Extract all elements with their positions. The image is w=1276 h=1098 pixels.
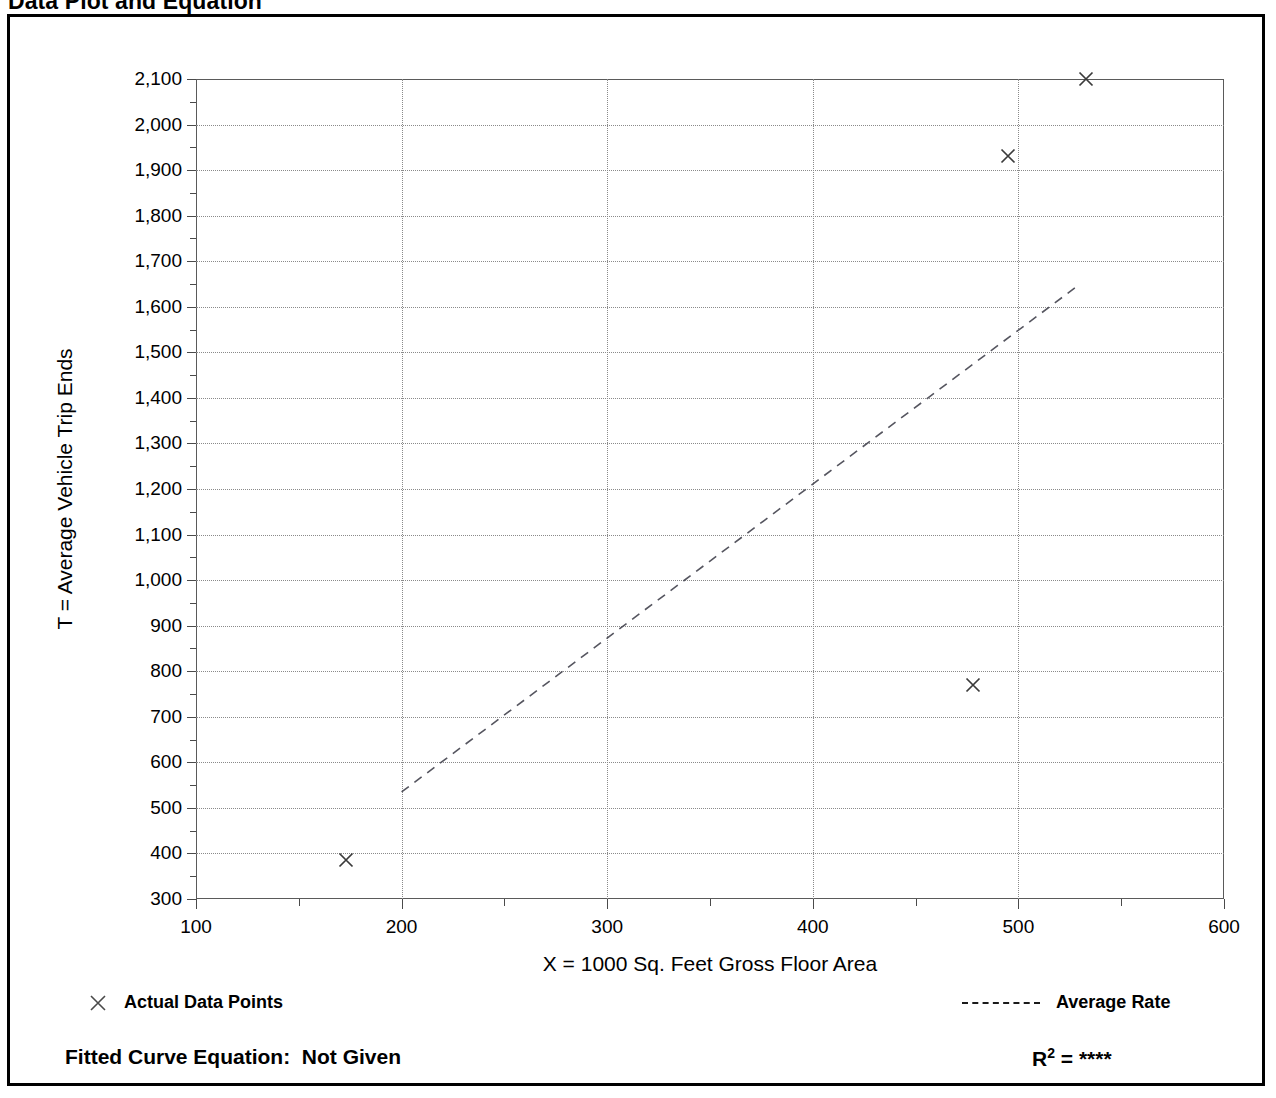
x-axis-tick-label: 400 — [768, 917, 858, 936]
x-axis-tick-label: 500 — [973, 917, 1063, 936]
legend-label-actual-points: Actual Data Points — [124, 992, 283, 1013]
plot-area: 3004005006007008009001,0001,1001,2001,30… — [196, 79, 1224, 899]
x-mark-icon — [88, 993, 108, 1013]
x-axis-tick — [402, 899, 403, 909]
y-axis-tick — [187, 808, 196, 809]
y-axis-tick — [187, 580, 196, 581]
legend-item-average-rate: Average Rate — [962, 992, 1170, 1013]
y-axis-tick — [187, 535, 196, 536]
y-axis-tick-label: 1,900 — [102, 160, 182, 179]
y-axis-tick-label: 1,800 — [102, 206, 182, 225]
y-axis-tick-label: 500 — [102, 798, 182, 817]
x-axis-tick — [813, 899, 814, 909]
data-point-marker — [337, 851, 355, 869]
y-axis-tick-label: 600 — [102, 752, 182, 771]
average-rate-trendline — [196, 79, 1224, 899]
x-axis-minor-tick — [299, 899, 300, 906]
y-axis-tick — [187, 307, 196, 308]
x-axis-tick-label: 100 — [151, 917, 241, 936]
y-axis-tick — [187, 671, 196, 672]
y-axis-tick — [187, 489, 196, 490]
y-axis-tick-label: 1,100 — [102, 525, 182, 544]
y-axis-tick-label: 2,100 — [102, 69, 182, 88]
fitted-curve-equation-label: Fitted Curve Equation: — [65, 1045, 290, 1068]
y-axis-tick — [187, 352, 196, 353]
x-axis-tick — [196, 899, 197, 909]
y-axis-tick — [187, 79, 196, 80]
page-frame: T = Average Vehicle Trip Ends X = 1000 S… — [7, 14, 1265, 1086]
legend-label-average-rate: Average Rate — [1056, 992, 1170, 1013]
y-axis-tick — [187, 170, 196, 171]
y-axis-tick — [187, 261, 196, 262]
y-axis-tick — [187, 443, 196, 444]
x-axis-title: X = 1000 Sq. Feet Gross Floor Area — [196, 952, 1224, 976]
y-axis-tick-label: 800 — [102, 661, 182, 680]
r-squared-value: **** — [1079, 1047, 1112, 1070]
data-point-marker — [999, 147, 1017, 165]
x-axis-minor-tick — [1121, 899, 1122, 906]
chart-page: Data Plot and Equation T = Average Vehic… — [0, 0, 1276, 1098]
x-axis-minor-tick — [504, 899, 505, 906]
fitted-curve-equation: Fitted Curve Equation: Not Given — [65, 1045, 401, 1069]
x-axis-tick — [607, 899, 608, 909]
r-squared-exponent: 2 — [1047, 1045, 1055, 1061]
y-axis-tick-label: 300 — [102, 889, 182, 908]
data-point-marker — [1077, 70, 1095, 88]
y-axis-tick — [187, 398, 196, 399]
y-axis-tick — [187, 899, 196, 900]
chart-footer: Fitted Curve Equation: Not Given R2 = **… — [10, 1045, 1262, 1081]
x-axis-tick-label: 200 — [357, 917, 447, 936]
x-axis-minor-tick — [916, 899, 917, 906]
y-axis-title: T = Average Vehicle Trip Ends — [52, 79, 78, 899]
y-axis-tick — [187, 717, 196, 718]
y-axis-tick-label: 1,700 — [102, 251, 182, 270]
x-axis-tick-label: 300 — [562, 917, 652, 936]
y-axis-tick-label: 1,300 — [102, 433, 182, 452]
r-squared-label: R — [1032, 1047, 1047, 1070]
y-axis-tick-label: 1,000 — [102, 570, 182, 589]
y-axis-tick-label: 1,600 — [102, 297, 182, 316]
dashed-line-icon — [962, 1002, 1040, 1004]
y-axis-tick — [187, 626, 196, 627]
y-axis-tick-label: 900 — [102, 616, 182, 635]
y-axis-tick — [187, 216, 196, 217]
x-axis-tick-label: 600 — [1179, 917, 1269, 936]
y-axis-tick-label: 1,500 — [102, 342, 182, 361]
y-axis-tick-label: 2,000 — [102, 115, 182, 134]
y-axis-tick — [187, 853, 196, 854]
legend-item-actual-points: Actual Data Points — [88, 992, 283, 1013]
x-axis-minor-tick — [710, 899, 711, 906]
y-axis-tick-label: 400 — [102, 843, 182, 862]
y-axis-tick-label: 1,400 — [102, 388, 182, 407]
fitted-curve-equation-value: Not Given — [302, 1045, 401, 1068]
x-axis-tick — [1018, 899, 1019, 909]
r-squared: R2 = **** — [1032, 1045, 1112, 1071]
r-squared-equals: = — [1055, 1047, 1079, 1070]
x-axis-tick — [1224, 899, 1225, 909]
y-axis-tick — [187, 125, 196, 126]
page-title: Data Plot and Equation — [8, 0, 262, 15]
y-axis-tick — [187, 762, 196, 763]
chart-legend: Actual Data Points Average Rate — [10, 992, 1262, 1026]
data-point-marker — [964, 676, 982, 694]
y-axis-tick-label: 700 — [102, 707, 182, 726]
y-axis-tick-label: 1,200 — [102, 479, 182, 498]
